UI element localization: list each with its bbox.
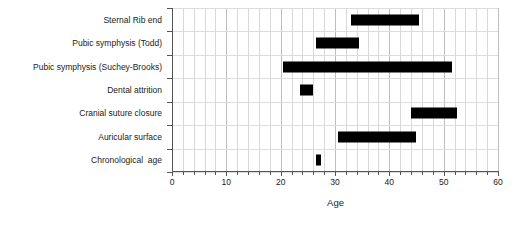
x-tick-minor: [313, 172, 314, 175]
y-tick: [167, 172, 172, 173]
x-tick-major: [172, 172, 173, 176]
gridline-vertical-minor: [270, 8, 271, 172]
gridline-vertical-minor: [400, 8, 401, 172]
x-tick-minor: [270, 172, 271, 175]
range-bar: [283, 61, 451, 72]
gridline-vertical-minor: [411, 8, 412, 172]
x-tick-minor: [194, 172, 195, 175]
x-tick-label: 30: [320, 177, 350, 187]
gridline-vertical-major: [226, 8, 227, 172]
range-bar: [411, 108, 457, 119]
gridline-vertical-minor: [476, 8, 477, 172]
x-tick-minor: [302, 172, 303, 175]
gridline-vertical-major: [444, 8, 445, 172]
x-tick-label: 60: [483, 177, 513, 187]
gridline-vertical-minor: [455, 8, 456, 172]
y-tick: [167, 8, 172, 9]
gridline-vertical-major: [389, 8, 390, 172]
gridline-vertical-minor: [237, 8, 238, 172]
range-bar: [300, 85, 314, 96]
y-tick: [167, 125, 172, 126]
gridline-vertical-minor: [487, 8, 488, 172]
x-tick-label: 50: [429, 177, 459, 187]
x-tick-major: [281, 172, 282, 176]
gridline-horizontal: [172, 102, 498, 103]
gridline-horizontal: [172, 149, 498, 150]
x-tick-major: [498, 172, 499, 176]
x-tick-major: [444, 172, 445, 176]
y-tick: [167, 31, 172, 32]
x-tick-minor: [368, 172, 369, 175]
gridline-vertical-minor: [313, 8, 314, 172]
x-tick-minor: [324, 172, 325, 175]
range-bar: [316, 155, 321, 166]
y-tick: [167, 78, 172, 79]
age-estimation-range-chart: Sternal Rib endPubic symphysis (Todd)Pub…: [0, 0, 516, 226]
category-label: Auricular surface: [0, 132, 162, 142]
x-tick-label: 0: [157, 177, 187, 187]
x-tick-minor: [411, 172, 412, 175]
x-tick-minor: [422, 172, 423, 175]
gridline-horizontal: [172, 55, 498, 56]
x-tick-minor: [259, 172, 260, 175]
y-tick: [167, 102, 172, 103]
x-tick-minor: [378, 172, 379, 175]
x-tick-label: 20: [266, 177, 296, 187]
gridline-vertical-minor: [194, 8, 195, 172]
y-axis-line: [172, 8, 173, 172]
x-tick-major: [335, 172, 336, 176]
gridline-vertical-minor: [422, 8, 423, 172]
gridline-vertical-major: [498, 8, 499, 172]
gridline-vertical-minor: [346, 8, 347, 172]
x-tick-minor: [465, 172, 466, 175]
gridline-vertical-minor: [259, 8, 260, 172]
x-tick-minor: [183, 172, 184, 175]
gridline-vertical-minor: [433, 8, 434, 172]
gridline-vertical-minor: [465, 8, 466, 172]
gridline-vertical-minor: [368, 8, 369, 172]
gridline-vertical-minor: [378, 8, 379, 172]
category-axis-labels: Sternal Rib endPubic symphysis (Todd)Pub…: [0, 8, 168, 172]
category-label: Sternal Rib end: [0, 15, 162, 25]
x-axis-title: Age: [172, 197, 499, 208]
range-bar: [351, 14, 419, 25]
gridline-vertical-minor: [357, 8, 358, 172]
gridline-vertical-major: [335, 8, 336, 172]
category-label: Chronological age: [0, 155, 162, 165]
x-tick-minor: [400, 172, 401, 175]
y-tick: [167, 55, 172, 56]
gridline-horizontal: [172, 125, 498, 126]
range-bar: [316, 38, 359, 49]
plot-area: [172, 8, 498, 172]
gridline-horizontal: [172, 31, 498, 32]
x-tick-minor: [433, 172, 434, 175]
y-tick: [167, 149, 172, 150]
category-label: Cranial suture closure: [0, 108, 162, 118]
gridline-vertical-minor: [324, 8, 325, 172]
gridline-vertical-minor: [183, 8, 184, 172]
x-tick-major: [389, 172, 390, 176]
x-tick-minor: [487, 172, 488, 175]
x-tick-minor: [205, 172, 206, 175]
x-tick-minor: [248, 172, 249, 175]
category-label: Pubic symphysis (Suchey-Brooks): [0, 62, 162, 72]
x-tick-minor: [476, 172, 477, 175]
category-label: Dental attrition: [0, 85, 162, 95]
x-tick-minor: [455, 172, 456, 175]
x-tick-minor: [215, 172, 216, 175]
gridline-vertical-minor: [215, 8, 216, 172]
x-tick-label: 10: [211, 177, 241, 187]
x-tick-minor: [346, 172, 347, 175]
gridline-horizontal: [172, 78, 498, 79]
gridline-vertical-minor: [292, 8, 293, 172]
gridline-vertical-major: [281, 8, 282, 172]
range-bar: [338, 131, 417, 142]
category-label: Pubic symphysis (Todd): [0, 38, 162, 48]
gridline-horizontal: [172, 8, 498, 9]
x-tick-minor: [357, 172, 358, 175]
x-tick-minor: [237, 172, 238, 175]
x-tick-minor: [292, 172, 293, 175]
x-tick-major: [226, 172, 227, 176]
gridline-vertical-minor: [205, 8, 206, 172]
gridline-vertical-minor: [248, 8, 249, 172]
